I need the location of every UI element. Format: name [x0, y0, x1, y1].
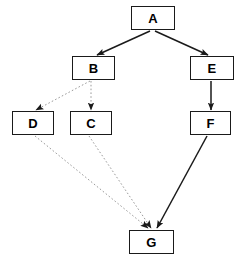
edge-f-to-g — [157, 136, 207, 228]
edge-a-to-e — [155, 31, 208, 55]
node-d-label: D — [28, 117, 38, 130]
edge-d-to-g — [35, 136, 148, 228]
node-g-label: G — [146, 236, 156, 249]
edge-a-to-b — [97, 31, 150, 55]
graph-diagram: ABEDCFG — [0, 0, 243, 260]
node-f-label: F — [206, 117, 214, 130]
node-c-label: C — [86, 117, 96, 130]
edge-b-to-d — [36, 81, 90, 110]
node-c[interactable]: C — [70, 111, 112, 135]
node-a-label: A — [148, 12, 158, 25]
node-a[interactable]: A — [131, 6, 175, 30]
node-e-label: E — [208, 62, 217, 75]
edge-c-to-g — [89, 136, 151, 228]
node-b-label: B — [89, 62, 99, 75]
node-g[interactable]: G — [129, 230, 174, 254]
node-d[interactable]: D — [12, 111, 54, 135]
node-e[interactable]: E — [190, 56, 234, 80]
node-b[interactable]: B — [72, 56, 115, 80]
node-f[interactable]: F — [190, 111, 231, 135]
